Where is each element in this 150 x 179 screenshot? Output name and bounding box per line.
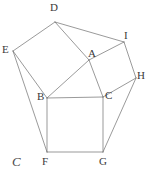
vertex-label-d: D xyxy=(50,2,58,13)
vertex-label-h: H xyxy=(137,70,145,81)
vertex-label-f: F xyxy=(42,156,48,167)
segment-group xyxy=(13,22,136,152)
vertex-label-a: A xyxy=(88,48,96,59)
square-ab-side-AD xyxy=(55,22,89,60)
vertex-label-b: B xyxy=(37,91,44,102)
vertex-label-i: I xyxy=(124,30,128,41)
vertex-label-g: G xyxy=(99,156,107,167)
vertex-label-e: E xyxy=(2,44,9,55)
square-ab-side-DE xyxy=(13,22,55,51)
triangle-side-AC xyxy=(89,60,103,97)
geometry-figure: ABCDEFGHI C xyxy=(0,0,150,179)
corner-label-c: C xyxy=(12,155,21,168)
figure-canvas xyxy=(0,0,150,179)
square-ac-side-IH xyxy=(124,42,136,78)
vertex-label-c: C xyxy=(105,90,112,101)
triangle-side-BC xyxy=(47,97,103,98)
diagonal-DI xyxy=(55,22,124,42)
triangle-side-AB xyxy=(47,60,89,98)
